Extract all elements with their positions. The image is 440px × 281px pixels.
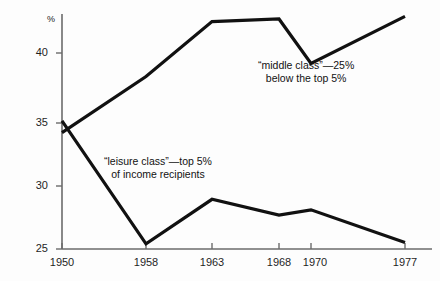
annotation-leisure-class: “leisure class”—top 5% of income recipie… bbox=[104, 155, 212, 181]
x-tick-label-1968: 1968 bbox=[267, 256, 291, 268]
line-chart: % 40 35 30 25 1950 1958 1963 1968 1970 1… bbox=[0, 0, 440, 281]
y-tick-label-40: 40 bbox=[22, 46, 48, 58]
annotation-leisure-class-line2: of income recipients bbox=[104, 168, 212, 181]
annotation-middle-class: “middle class”—25% below the top 5% bbox=[258, 59, 354, 85]
y-axis-unit-label: % bbox=[47, 14, 55, 24]
x-tick-label-1977: 1977 bbox=[393, 256, 417, 268]
annotation-middle-class-line2: below the top 5% bbox=[258, 72, 354, 85]
y-tick-label-30: 30 bbox=[22, 179, 48, 191]
x-tick-label-1963: 1963 bbox=[200, 256, 224, 268]
y-tick-label-25: 25 bbox=[22, 242, 48, 254]
y-tick-label-35: 35 bbox=[22, 116, 48, 128]
x-tick-label-1958: 1958 bbox=[134, 256, 158, 268]
chart-plot-area bbox=[0, 0, 440, 281]
annotation-middle-class-line1: “middle class”—25% bbox=[258, 59, 354, 72]
x-tick-label-1970: 1970 bbox=[303, 256, 327, 268]
series-line-leisure-class bbox=[62, 121, 405, 244]
annotation-leisure-class-line1: “leisure class”—top 5% bbox=[104, 155, 212, 168]
x-tick-label-1950: 1950 bbox=[50, 256, 74, 268]
